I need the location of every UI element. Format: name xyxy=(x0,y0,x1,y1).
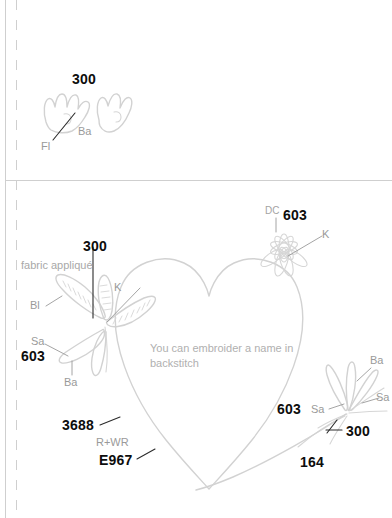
label-e967: E967 xyxy=(99,453,133,467)
label-dc: DC xyxy=(265,206,279,216)
label-fl: Fl xyxy=(41,141,50,152)
center-name-note: You can embroider a name in backstitch xyxy=(150,341,300,371)
embroidery-pattern-page: .stitch { fill: none; stroke: #d2d2d2; s… xyxy=(0,0,392,518)
label-603-left: 603 xyxy=(21,349,45,363)
label-ba-right: Ba xyxy=(370,355,383,366)
label-sa-left: Sa xyxy=(31,336,44,347)
label-rwr: R+WR xyxy=(96,437,129,448)
label-300-left: 300 xyxy=(83,239,107,253)
label-3688: 3688 xyxy=(62,418,94,432)
top-thread-code-300: 300 xyxy=(72,72,96,86)
label-603-daisy: 603 xyxy=(283,208,307,222)
label-300-right: 300 xyxy=(346,424,370,438)
label-ba: Ba xyxy=(78,126,91,137)
label-k-left: K xyxy=(114,282,121,293)
label-k-daisy: K xyxy=(322,229,329,240)
heart-outline xyxy=(115,259,302,489)
label-bl: Bl xyxy=(30,300,40,311)
fabric-applique-note: fabric appliqué xyxy=(21,259,93,271)
daisy-flower xyxy=(258,218,322,278)
label-sa-right-outer: Sa xyxy=(376,392,389,403)
label-603-right: 603 xyxy=(277,402,301,416)
label-sa-right-inner: Sa xyxy=(311,404,324,415)
label-ba-left: Ba xyxy=(64,377,77,388)
label-164: 164 xyxy=(300,455,324,469)
